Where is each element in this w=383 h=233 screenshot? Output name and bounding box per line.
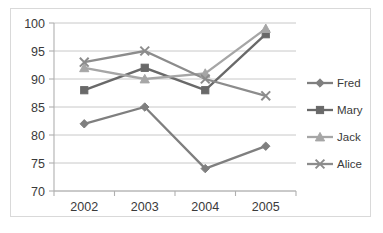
y-axis-tick-label: 100 — [24, 17, 45, 31]
y-axis-tick-label: 70 — [31, 185, 45, 199]
x-axis-tick-label: 2002 — [70, 200, 98, 214]
legend-label-fred[interactable]: Fred — [337, 77, 361, 89]
y-axis-tick-label: 80 — [31, 129, 45, 143]
data-point-marker — [262, 142, 270, 150]
line-chart: 1009590858075702002200320042005FredMaryJ… — [11, 9, 372, 218]
legend-label-mary[interactable]: Mary — [337, 104, 363, 116]
legend-label-alice[interactable]: Alice — [337, 158, 362, 170]
x-axis-tick-label: 2003 — [131, 200, 159, 214]
series-line-mary — [84, 34, 266, 90]
chart-frame: 1009590858075702002200320042005FredMaryJ… — [10, 8, 371, 217]
data-point-marker — [316, 79, 324, 87]
chart-plot-area: 1009590858075702002200320042005FredMaryJ… — [11, 9, 372, 218]
data-point-marker — [261, 24, 270, 33]
y-axis-tick-label: 95 — [31, 45, 45, 59]
series-line-jack — [84, 29, 266, 79]
y-axis-tick-label: 85 — [31, 101, 45, 115]
x-axis-tick-label: 2004 — [191, 200, 219, 214]
data-point-marker — [202, 87, 209, 94]
data-point-marker — [316, 106, 323, 113]
data-point-marker — [81, 87, 88, 94]
data-point-marker — [80, 120, 88, 128]
y-axis-tick-label: 75 — [31, 157, 45, 171]
legend-label-jack[interactable]: Jack — [337, 131, 361, 143]
data-point-marker — [141, 64, 148, 71]
series-line-fred — [84, 107, 266, 169]
x-axis-tick-label: 2005 — [252, 200, 280, 214]
y-axis-tick-label: 90 — [31, 73, 45, 87]
